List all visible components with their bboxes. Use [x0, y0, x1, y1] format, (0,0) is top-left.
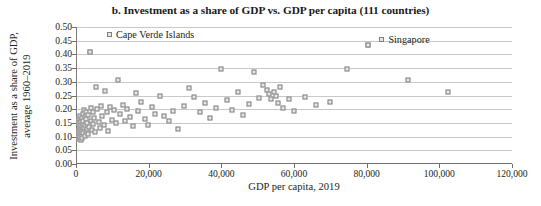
y-tick-label: 0.05: [42, 144, 72, 155]
y-tick-label: 0.20: [42, 103, 72, 114]
y-tick-mark: [72, 27, 76, 28]
data-point: [406, 78, 411, 83]
y-tick-mark: [72, 41, 76, 42]
x-tick-label: 60,000: [281, 168, 307, 179]
data-point: [127, 115, 132, 120]
data-point: [235, 90, 240, 95]
data-point: [149, 105, 154, 110]
data-point: [171, 109, 176, 114]
data-point: [130, 124, 135, 129]
data-point: [98, 104, 103, 109]
data-point-highlighted: [87, 49, 92, 54]
data-point: [176, 126, 181, 131]
plot-area: Cape Verde IslandsSingapore: [76, 27, 512, 164]
annotation-label: Singapore: [388, 34, 429, 45]
data-point: [313, 102, 318, 107]
data-point: [101, 122, 106, 127]
y-tick-label: 0.30: [42, 76, 72, 87]
y-axis-title-line1: Investment as a share of GDP,: [7, 32, 21, 160]
data-point: [139, 100, 144, 105]
gridline-horizontal: [76, 137, 512, 138]
data-point-highlighted: [366, 42, 371, 47]
y-axis-title-line2: average 1960–2019: [20, 32, 34, 160]
data-point: [181, 103, 186, 108]
y-tick-label: 0.45: [42, 35, 72, 46]
x-tick-label: 100,000: [424, 168, 455, 179]
x-tick-label: 20,000: [135, 168, 161, 179]
x-tick-label: 80,000: [353, 168, 379, 179]
data-point: [104, 110, 109, 115]
y-tick-label: 0.10: [42, 131, 72, 142]
data-point: [446, 89, 451, 94]
data-point: [202, 100, 207, 105]
data-point: [94, 84, 99, 89]
y-tick-mark: [72, 54, 76, 55]
data-point: [186, 85, 191, 90]
data-point: [157, 93, 162, 98]
annotation-marker-icon: [107, 32, 112, 37]
y-tick-mark: [72, 82, 76, 83]
x-axis-tick-labels: 020,00040,00060,00080,000100,000120,000: [76, 164, 512, 180]
data-point: [213, 105, 218, 110]
y-tick-label: 0.00: [42, 158, 72, 169]
gridline-horizontal: [76, 150, 512, 151]
gridline-horizontal: [76, 68, 512, 69]
chart-title: b. Investment as a share of GDP vs. GDP …: [0, 4, 541, 16]
data-point: [124, 106, 129, 111]
data-point: [192, 94, 197, 99]
data-point: [111, 108, 116, 113]
data-point: [328, 99, 333, 104]
y-tick-mark: [72, 150, 76, 151]
data-point: [241, 112, 246, 117]
data-point: [118, 111, 123, 116]
data-point: [224, 98, 229, 103]
y-tick-label: 0.50: [42, 21, 72, 32]
data-point: [252, 69, 257, 74]
data-point: [116, 78, 121, 83]
point-annotation: Singapore: [379, 34, 429, 45]
data-point: [145, 122, 150, 127]
y-tick-mark: [72, 68, 76, 69]
y-tick-mark: [72, 109, 76, 110]
data-point: [230, 108, 235, 113]
data-point: [344, 66, 349, 71]
annotation-marker-icon: [379, 37, 384, 42]
y-tick-label: 0.40: [42, 48, 72, 59]
gridline-horizontal: [76, 54, 512, 55]
x-axis-title: GDP per capita, 2019: [76, 181, 512, 192]
gridline-horizontal: [76, 82, 512, 83]
data-point: [278, 85, 283, 90]
data-point: [103, 89, 108, 94]
data-point: [281, 106, 286, 111]
gridline-horizontal: [76, 41, 512, 42]
data-point: [257, 95, 262, 100]
data-point: [197, 110, 202, 115]
data-point: [153, 112, 158, 117]
y-axis-tick-labels: 0.000.050.100.150.200.250.300.350.400.45…: [40, 27, 72, 164]
data-point: [292, 109, 297, 114]
data-point: [273, 94, 278, 99]
data-point: [246, 101, 251, 106]
data-point: [166, 118, 171, 123]
data-point: [286, 97, 291, 102]
x-tick-label: 120,000: [496, 168, 527, 179]
figure-root: b. Investment as a share of GDP vs. GDP …: [0, 0, 541, 206]
data-point: [113, 121, 118, 126]
y-tick-label: 0.35: [42, 62, 72, 73]
data-point: [136, 108, 141, 113]
y-tick-mark: [72, 96, 76, 97]
point-annotation: Cape Verde Islands: [107, 29, 194, 40]
data-point: [93, 130, 98, 135]
x-tick-label: 0: [74, 168, 79, 179]
gridline-horizontal: [76, 123, 512, 124]
y-tick-label: 0.15: [42, 117, 72, 128]
y-tick-mark: [72, 123, 76, 124]
data-point: [142, 116, 147, 121]
y-axis-line: [76, 27, 77, 164]
x-tick-label: 40,000: [208, 168, 234, 179]
data-point: [133, 91, 138, 96]
data-point: [208, 115, 213, 120]
annotation-label: Cape Verde Islands: [116, 29, 194, 40]
data-point: [106, 128, 111, 133]
data-point: [219, 66, 224, 71]
